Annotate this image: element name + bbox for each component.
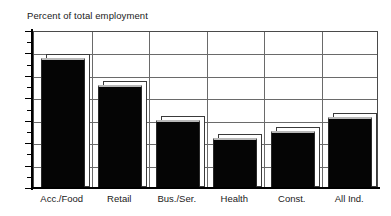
y-axis: 010203040506070 [0, 0, 33, 216]
chart-title: Percent of total employment [27, 10, 148, 21]
gridline-x-2 [149, 32, 150, 187]
x-axis-line [31, 187, 380, 189]
bar-health [213, 138, 257, 187]
gridline-x-4 [264, 32, 265, 187]
x-label-const: Const. [263, 193, 321, 204]
x-label-allind: All Ind. [321, 193, 379, 204]
plot-area [33, 31, 378, 188]
bar-accfood [41, 58, 85, 187]
gridline-x-3 [207, 32, 208, 187]
bar-allind [328, 117, 372, 187]
bar-chart: Percent of total employment 010203040506… [0, 0, 391, 216]
bar-busser [156, 120, 200, 187]
gridline-x-5 [322, 32, 323, 187]
bar-const [271, 131, 315, 187]
x-label-busser: Bus./Ser. [148, 193, 206, 204]
x-label-retail: Retail [91, 193, 149, 204]
x-label-accfood: Acc./Food [33, 193, 91, 204]
bar-retail [98, 85, 142, 187]
gridline-x-1 [92, 32, 93, 187]
x-label-health: Health [206, 193, 264, 204]
